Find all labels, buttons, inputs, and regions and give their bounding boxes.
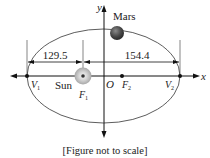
dimension-left-label: 129.5: [43, 49, 68, 61]
vertex1-point: [25, 74, 29, 78]
orbit-diagram: 129.5 154.4 y x Mars Sun O F 1 F 2 V 1 V…: [0, 0, 210, 158]
x-axis-left-arrow-icon: [10, 74, 17, 79]
svg-text:1: 1: [37, 85, 40, 91]
sun-label: Sun: [55, 79, 73, 91]
y-axis-down-arrow-icon: [102, 131, 107, 138]
x-axis-label: x: [200, 70, 206, 82]
focus2-point: [120, 74, 124, 78]
y-axis-label: y: [96, 1, 102, 13]
mars-icon: [110, 26, 124, 40]
mars-label: Mars: [113, 10, 136, 22]
focus1-label: F 1: [78, 89, 88, 101]
vertex2-point: [178, 74, 182, 78]
dimension-right-label: 154.4: [125, 49, 150, 61]
vertex2-label: V 2: [165, 79, 174, 91]
x-axis-right-arrow-icon: [193, 74, 200, 79]
svg-text:2: 2: [128, 85, 131, 91]
y-axis: [102, 5, 107, 138]
y-axis-up-arrow-icon: [102, 5, 107, 12]
sun-icon: [75, 68, 92, 85]
origin-label: O: [106, 78, 114, 90]
focus2-label: F 2: [121, 79, 131, 91]
svg-text:2: 2: [171, 85, 174, 91]
vertex1-label: V 1: [31, 79, 40, 91]
figure-caption: [Figure not to scale]: [63, 145, 148, 156]
svg-text:1: 1: [85, 95, 88, 101]
x-axis: [10, 74, 200, 79]
